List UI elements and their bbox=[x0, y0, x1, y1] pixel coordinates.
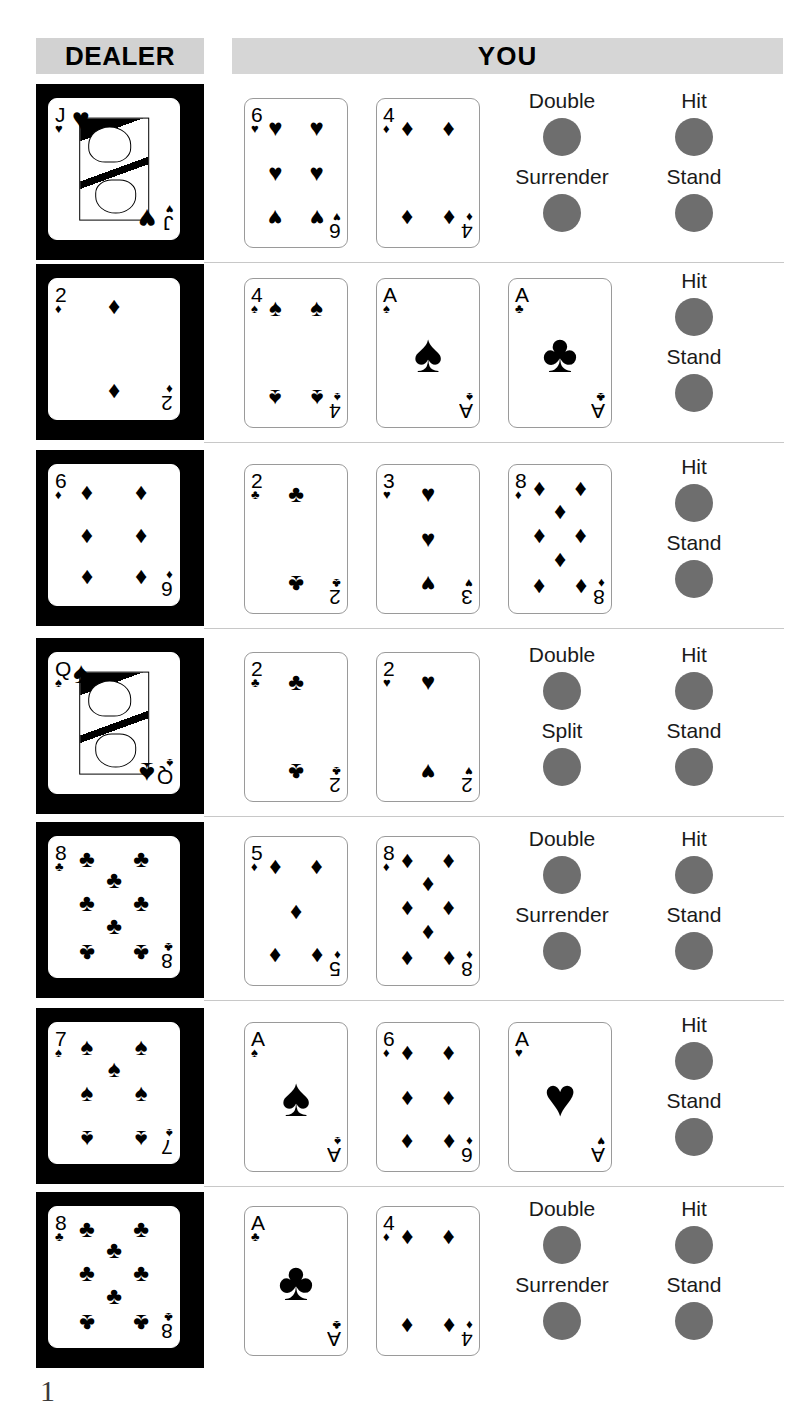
action-label-surrender: Surrender bbox=[508, 166, 616, 188]
action-bubble-hit[interactable] bbox=[675, 672, 713, 710]
action-bubble-stand[interactable] bbox=[675, 194, 713, 232]
dealer-header-label: DEALER bbox=[65, 41, 175, 72]
hand-row: Q♠Q♠♠♠2♣2♣♣♣2♥2♥♥♥DoubleSplitHitStand bbox=[0, 638, 808, 820]
card-pips: ♠♠ bbox=[55, 656, 173, 790]
card-pips: ♦♦♦♦ bbox=[383, 1210, 473, 1352]
action-bubble-hit[interactable] bbox=[675, 118, 713, 156]
card-suit-icon: ♣ bbox=[133, 891, 149, 915]
card-suit-icon: ♦ bbox=[443, 895, 455, 919]
card-suit-icon: ♠ bbox=[135, 1035, 148, 1059]
action-bubble-stand[interactable] bbox=[675, 374, 713, 412]
card-suit-icon: ♦ bbox=[401, 1085, 413, 1109]
player-card[interactable]: 3♥3♥♥♥♥ bbox=[376, 464, 480, 614]
action-bubble-hit[interactable] bbox=[675, 1226, 713, 1264]
player-card[interactable]: 6♦6♦♦♦♦♦♦♦ bbox=[376, 1022, 480, 1172]
card-suit-icon: ♦ bbox=[443, 1130, 455, 1154]
action-label-hit: Hit bbox=[640, 90, 748, 112]
card-suit-icon: ♠ bbox=[108, 1057, 121, 1081]
card-suit-icon: ♦ bbox=[575, 575, 587, 599]
card-pips: ♥♥♥♥♥♥ bbox=[251, 102, 341, 244]
you-column-header: YOU bbox=[232, 38, 783, 74]
card-suit-icon: ♥ bbox=[268, 161, 282, 185]
action-label-hit: Hit bbox=[640, 456, 748, 478]
player-card[interactable]: A♠A♠♠ bbox=[376, 278, 480, 428]
action-label-stand: Stand bbox=[640, 1090, 748, 1112]
action-bubble-surrender[interactable] bbox=[543, 194, 581, 232]
player-card[interactable]: 8♦8♦♦♦♦♦♦♦♦♦ bbox=[376, 836, 480, 986]
action-bubble-stand[interactable] bbox=[675, 1302, 713, 1340]
player-card[interactable]: 8♦8♦♦♦♦♦♦♦♦♦ bbox=[508, 464, 612, 614]
action-bubble-hit[interactable] bbox=[675, 484, 713, 522]
action-label-double: Double bbox=[508, 90, 616, 112]
player-card[interactable]: A♣A♣♣ bbox=[244, 1206, 348, 1356]
card-pips: ♣♣ bbox=[251, 468, 341, 610]
card-pips: ♦♦♦♦♦♦♦♦ bbox=[383, 840, 473, 982]
card-suit-icon: ♥ bbox=[544, 1070, 576, 1124]
card-suit-icon: ♣ bbox=[288, 482, 304, 506]
action-bubble-stand[interactable] bbox=[675, 1118, 713, 1156]
action-label-split: Split bbox=[508, 720, 616, 742]
action-bubble-surrender[interactable] bbox=[543, 1302, 581, 1340]
player-card[interactable]: 6♥6♥♥♥♥♥♥♥ bbox=[244, 98, 348, 248]
action-bubble-hit[interactable] bbox=[675, 298, 713, 336]
card-suit-icon: ♦ bbox=[401, 895, 413, 919]
dealer-card: 6♦6♦♦♦♦♦♦♦ bbox=[48, 464, 180, 606]
action-label-stand: Stand bbox=[640, 720, 748, 742]
card-suit-icon: ♦ bbox=[108, 380, 120, 404]
card-pips: ♥♥ bbox=[55, 102, 173, 236]
action-bubble-hit[interactable] bbox=[675, 856, 713, 894]
card-suit-icon: ♦ bbox=[443, 1085, 455, 1109]
row-separator bbox=[204, 628, 784, 629]
action-bubble-surrender[interactable] bbox=[543, 932, 581, 970]
card-suit-icon: ♥ bbox=[310, 161, 324, 185]
card-suit-icon: ♣ bbox=[106, 868, 122, 892]
card-pips: ♠ bbox=[383, 282, 473, 424]
card-suit-icon: ♣ bbox=[133, 941, 149, 965]
player-card[interactable]: 4♠4♠♠♠♠♠ bbox=[244, 278, 348, 428]
card-suit-icon: ♥ bbox=[310, 116, 324, 140]
card-suit-icon: ♠ bbox=[80, 1081, 93, 1105]
action-bubble-stand[interactable] bbox=[675, 932, 713, 970]
player-card[interactable]: 2♣2♣♣♣ bbox=[244, 652, 348, 802]
card-suit-icon: ♦ bbox=[135, 480, 147, 504]
dealer-card: 2♦2♦♦♦ bbox=[48, 278, 180, 420]
card-suit-icon: ♠ bbox=[139, 758, 155, 788]
player-card[interactable]: 4♦4♦♦♦♦♦ bbox=[376, 1206, 480, 1356]
dealer-column-header: DEALER bbox=[36, 38, 204, 74]
player-card[interactable]: A♠A♠♠ bbox=[244, 1022, 348, 1172]
player-card[interactable]: 5♦5♦♦♦♦♦♦ bbox=[244, 836, 348, 986]
action-bubble-double[interactable] bbox=[543, 856, 581, 894]
action-bubble-hit[interactable] bbox=[675, 1042, 713, 1080]
dealer-card: Q♠Q♠♠♠ bbox=[48, 652, 180, 794]
action-label-hit: Hit bbox=[640, 270, 748, 292]
action-bubble-stand[interactable] bbox=[675, 748, 713, 786]
card-suit-icon: ♣ bbox=[542, 326, 577, 380]
action-label-stand: Stand bbox=[640, 166, 748, 188]
action-column-left: DoubleSurrender bbox=[508, 828, 616, 980]
card-pips: ♥♥ bbox=[383, 656, 473, 798]
card-suit-icon: ♠ bbox=[135, 1081, 148, 1105]
card-suit-icon: ♦ bbox=[533, 476, 545, 500]
card-suit-icon: ♦ bbox=[575, 476, 587, 500]
action-bubble-double[interactable] bbox=[543, 672, 581, 710]
card-suit-icon: ♦ bbox=[443, 1040, 455, 1064]
row-separator bbox=[204, 442, 784, 443]
player-card[interactable]: A♣A♣♣ bbox=[508, 278, 612, 428]
player-card[interactable]: 4♦4♦♦♦♦♦ bbox=[376, 98, 480, 248]
player-card[interactable]: 2♣2♣♣♣ bbox=[244, 464, 348, 614]
card-pips: ♣♣♣♣♣♣♣♣ bbox=[55, 1210, 173, 1344]
card-suit-icon: ♠ bbox=[310, 386, 323, 410]
card-suit-icon: ♥ bbox=[310, 206, 324, 230]
player-card[interactable]: A♥A♥♥ bbox=[508, 1022, 612, 1172]
action-bubble-stand[interactable] bbox=[675, 560, 713, 598]
action-label-double: Double bbox=[508, 828, 616, 850]
card-suit-icon: ♣ bbox=[79, 1217, 95, 1241]
card-suit-icon: ♦ bbox=[135, 523, 147, 547]
action-bubble-split[interactable] bbox=[543, 748, 581, 786]
card-suit-icon: ♦ bbox=[269, 944, 281, 968]
action-bubble-double[interactable] bbox=[543, 118, 581, 156]
action-bubble-double[interactable] bbox=[543, 1226, 581, 1264]
action-column-right: HitStand bbox=[640, 90, 748, 242]
player-card[interactable]: 2♥2♥♥♥ bbox=[376, 652, 480, 802]
card-suit-icon: ♠ bbox=[269, 386, 282, 410]
